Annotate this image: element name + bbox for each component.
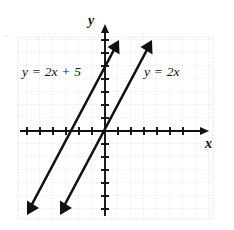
line-label-y-equals-2x-plus-5: y = 2x + 5 [22, 65, 81, 79]
plotted-lines [0, 0, 234, 230]
graph-figure: y = 2x + 5 y = 2x y x [0, 0, 234, 230]
y-axis-label: y [88, 14, 94, 28]
x-axis-label: x [205, 137, 212, 151]
line-label-y-equals-2x: y = 2x [144, 65, 180, 79]
